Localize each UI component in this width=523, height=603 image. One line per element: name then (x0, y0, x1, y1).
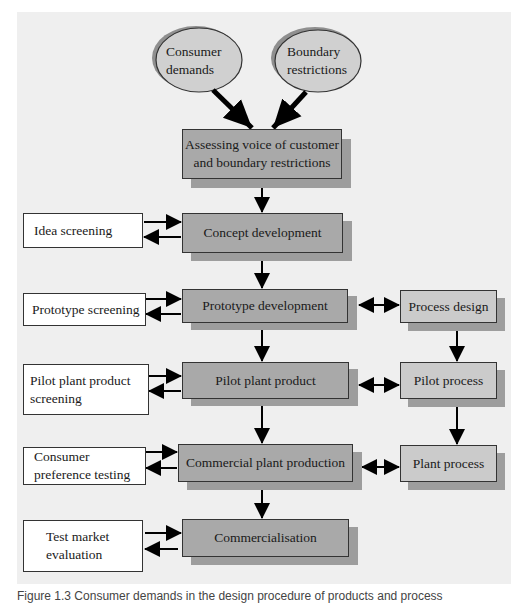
consumer-demands-line2: demands (166, 61, 222, 79)
boundary-restrictions-line2: restrictions (287, 61, 347, 79)
screen-idea-screening: Idea screening (23, 213, 143, 248)
screening-arrows (144, 222, 181, 549)
stage-commercialisation: Commercialisation (182, 519, 349, 557)
idea-screening-label: Idea screening (34, 222, 112, 240)
stage-commercial-plant-production: Commercial plant production (178, 444, 353, 482)
stage-concept-development: Concept development (182, 213, 343, 253)
pilot-screening-line2: screening (30, 390, 82, 408)
process-design-box: Process design (400, 290, 497, 323)
consumer-testing-line2: preference testing (34, 466, 130, 484)
screen-prototype-screening: Prototype screening (23, 293, 146, 326)
assess-box: Assessing voice of customer and boundary… (182, 129, 342, 179)
test-market-line2: evaluation (46, 546, 102, 564)
screen-consumer-preference-testing: Consumer preference testing (23, 447, 146, 485)
assess-line2: and boundary restrictions (193, 154, 330, 172)
figure-caption: Figure 1.3 Consumer demands in the desig… (17, 589, 443, 603)
boundary-restrictions-line1: Boundary (287, 43, 347, 61)
prototype-screening-label: Prototype screening (32, 301, 140, 319)
consumer-testing-line1: Consumer (34, 448, 90, 466)
boundary-restrictions-label: Boundary restrictions (287, 43, 347, 79)
process-link-arrows (359, 305, 399, 467)
boundary-arrow-icon (273, 92, 306, 128)
pilot-process-box: Pilot process (400, 362, 497, 399)
stage-prototype-development: Prototype development (182, 289, 348, 323)
stage-pilot-plant-product: Pilot plant product (182, 362, 349, 399)
screen-pilot-plant-product-screening: Pilot plant product screening (23, 364, 149, 415)
plant-process-box: Plant process (400, 445, 497, 482)
consumer-demands-line1: Consumer (166, 43, 222, 61)
assess-line1: Assessing voice of customer (185, 136, 339, 154)
consumer-demands-label: Consumer demands (166, 43, 222, 79)
pilot-screening-line1: Pilot plant product (30, 372, 131, 390)
screen-test-market-evaluation: Test market evaluation (23, 520, 143, 572)
consumer-arrow-icon (213, 90, 252, 128)
test-market-line1: Test market (46, 528, 109, 546)
